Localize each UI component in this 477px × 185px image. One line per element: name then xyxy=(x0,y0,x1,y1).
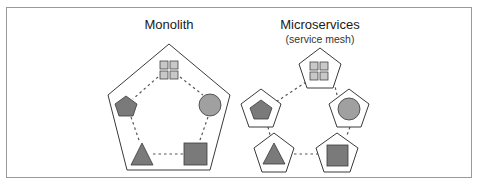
monolith-title: Monolith xyxy=(144,17,193,32)
architecture-diagram: Monolith Microservices (service mesh xyxy=(0,0,477,185)
service-pentagon xyxy=(241,89,281,127)
circle-icon xyxy=(338,98,360,120)
circle-icon xyxy=(199,94,221,116)
monolith-panel: Monolith xyxy=(108,17,230,170)
service-square xyxy=(316,133,358,172)
microservices-panel: Microservices (service mesh) xyxy=(241,17,369,172)
microservices-subtitle: (service mesh) xyxy=(286,33,355,45)
square-icon xyxy=(184,143,207,165)
service-grid xyxy=(299,48,341,88)
microservices-title: Microservices xyxy=(280,17,360,32)
service-circle xyxy=(329,89,369,127)
square-icon xyxy=(327,145,348,166)
service-triangle xyxy=(254,133,294,172)
